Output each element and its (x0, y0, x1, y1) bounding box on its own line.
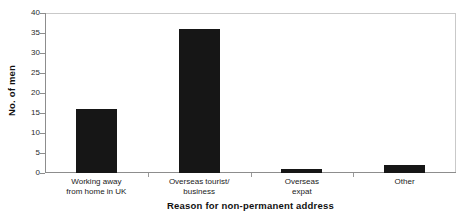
plot-area (45, 13, 456, 173)
y-axis-tick-label-text: 5 (2, 149, 40, 157)
y-axis-tick-label: 10 (0, 129, 40, 137)
y-axis-tick (40, 93, 45, 94)
x-axis-category-label-line: Working away (45, 177, 148, 187)
y-axis-tick-label-text: 30 (2, 49, 40, 57)
x-axis-category-label-line: business (148, 187, 251, 197)
y-axis-tick-label: 0 (0, 169, 40, 177)
y-axis-line (45, 13, 46, 173)
x-axis-category-label: Overseasexpat (251, 177, 354, 197)
y-axis-tick (40, 53, 45, 54)
y-axis-tick-label-text: 20 (2, 89, 40, 97)
x-axis-title: Reason for non-permanent address (45, 200, 456, 211)
y-axis-tick-label: 35 (0, 29, 40, 37)
y-axis-tick-label: 25 (0, 69, 40, 77)
y-axis-tick (40, 173, 45, 174)
y-axis-tick-label-text: 0 (2, 169, 40, 177)
y-axis-tick (40, 133, 45, 134)
x-axis-category-label: Working awayfrom home in UK (45, 177, 148, 197)
bar-chart: No. of men 4035302520151050 Working away… (0, 0, 463, 222)
y-axis-tick-label-text: 40 (2, 9, 40, 17)
y-axis-tick (40, 153, 45, 154)
y-axis-tick-label: 30 (0, 49, 40, 57)
x-axis-category-label-line: from home in UK (45, 187, 148, 197)
y-axis-tick (40, 113, 45, 114)
y-axis-tick-label: 40 (0, 9, 40, 17)
y-axis-tick (40, 73, 45, 74)
y-axis-tick-label: 15 (0, 109, 40, 117)
x-axis-category-label-line: expat (251, 187, 354, 197)
x-axis-category-label-line: Other (353, 177, 456, 187)
y-axis-tick-label: 5 (0, 149, 40, 157)
x-axis-category-label-line: Overseas (251, 177, 354, 187)
y-axis-tick-label-text: 35 (2, 29, 40, 37)
y-axis-tick-label: 20 (0, 89, 40, 97)
y-axis-tick-label-text: 10 (2, 129, 40, 137)
x-axis-category-label-line: Overseas tourist/ (148, 177, 251, 187)
y-axis-tick-label-text: 15 (2, 109, 40, 117)
x-axis-category-label: Other (353, 177, 456, 187)
y-axis-tick (40, 13, 45, 14)
y-axis-tick (40, 33, 45, 34)
x-axis-category-label: Overseas tourist/business (148, 177, 251, 197)
y-axis-tick-label-text: 25 (2, 69, 40, 77)
